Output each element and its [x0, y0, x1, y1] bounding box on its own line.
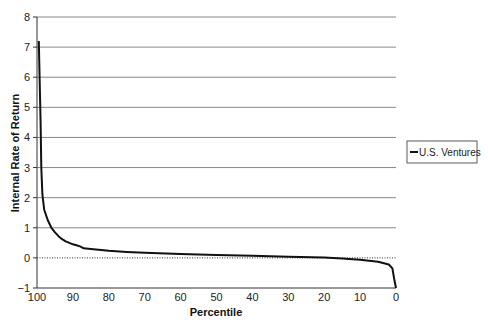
- y-tick-label: 8: [24, 11, 30, 23]
- y-tick-label: 3: [24, 162, 30, 174]
- y-tick-label: 0: [24, 252, 30, 264]
- irr-percentile-chart: −1012345678 1009080706050403020100 Perce…: [0, 0, 488, 325]
- x-axis-title: Percentile: [190, 306, 243, 318]
- y-tick-label: 2: [24, 192, 30, 204]
- gridlines: [37, 17, 396, 228]
- y-tick-label: 1: [24, 222, 30, 234]
- x-tick-label: 20: [318, 291, 330, 303]
- y-tick-label: 5: [24, 101, 30, 113]
- x-tick-label: 40: [246, 291, 258, 303]
- x-tick-label: 50: [210, 291, 222, 303]
- x-tick-label: 90: [67, 291, 79, 303]
- x-axis-ticks: 1009080706050403020100: [28, 291, 399, 303]
- x-tick-label: 0: [393, 291, 399, 303]
- x-tick-label: 80: [103, 291, 115, 303]
- x-tick-label: 30: [282, 291, 294, 303]
- x-tick-label: 60: [174, 291, 186, 303]
- axes: [37, 17, 396, 288]
- x-tick-label: 10: [354, 291, 366, 303]
- series-lines: [39, 41, 396, 288]
- legend: U.S. Ventures: [407, 141, 481, 163]
- y-tick-label: 4: [24, 131, 30, 143]
- y-tick-label: 6: [24, 71, 30, 83]
- series-line-us-ventures: [39, 41, 396, 288]
- y-tick-label: 7: [24, 41, 30, 53]
- x-tick-label: 100: [28, 291, 46, 303]
- y-axis-title: Internal Rate of Return: [9, 93, 21, 212]
- legend-label: U.S. Ventures: [419, 147, 481, 158]
- x-tick-label: 70: [139, 291, 151, 303]
